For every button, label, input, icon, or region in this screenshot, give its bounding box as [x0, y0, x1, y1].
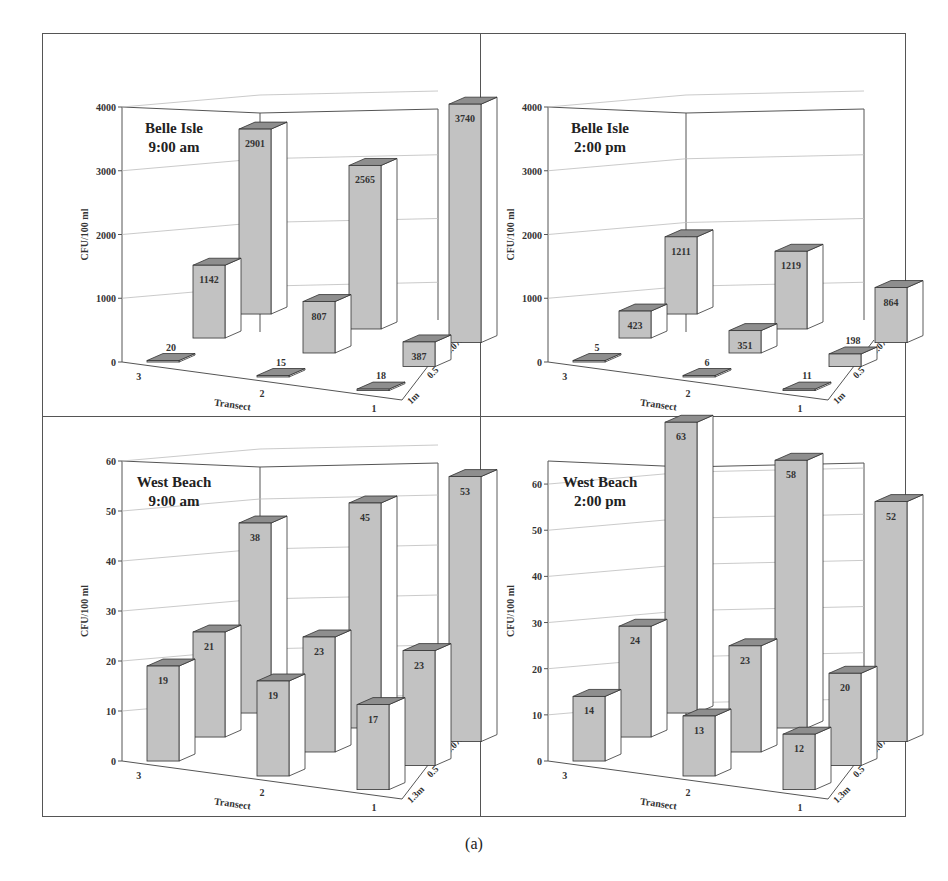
bar-value-label: 15 [276, 357, 286, 368]
y-tick-label: 60 [106, 456, 116, 467]
bar-0.5-2: 807 [303, 295, 351, 353]
bar-side [271, 122, 287, 314]
x-tick-label: 3 [562, 371, 567, 382]
bar-0.075-3: 1211 [665, 230, 713, 314]
bar-value-label: 5 [595, 342, 600, 353]
bar-side [605, 689, 621, 761]
chart-title: 9:00 am [148, 139, 200, 155]
y-tick-label: 0 [537, 756, 542, 767]
x-tick-label: 2 [260, 388, 265, 399]
y-tick-label: 40 [532, 571, 542, 582]
y-tick-label: 30 [532, 618, 542, 629]
depth-tick-label: 1.3m [405, 784, 426, 805]
bar-value-label: 3740 [455, 113, 475, 124]
bar-value-label: 1211 [671, 246, 690, 257]
bar-value-label: 23 [314, 646, 324, 657]
bar-0.5-1: 23 [403, 644, 451, 766]
bar-value-label: 1219 [781, 260, 801, 271]
y-tick-label: 2000 [522, 230, 542, 241]
bar-side [225, 625, 241, 737]
bar-value-label: 14 [584, 705, 594, 716]
bar-value-label: 12 [794, 743, 804, 754]
chart-title: West Beach [137, 474, 212, 490]
bar-value-label: 351 [738, 340, 753, 351]
bar-value-label: 58 [786, 469, 796, 480]
y-tick-label: 3000 [522, 166, 542, 177]
bar-1.3m-3: 19 [147, 659, 195, 761]
bar-value-label: 807 [312, 311, 327, 322]
bar-front [573, 361, 605, 363]
bar-0.5-2: 23 [729, 639, 777, 752]
x-axis-label: Transect [639, 397, 678, 413]
gridline [122, 91, 438, 107]
bar-0.5-1: 20 [829, 666, 877, 765]
bar-value-label: 17 [368, 714, 378, 725]
bar-side [381, 496, 397, 728]
bar-front [449, 104, 481, 342]
bar-value-label: 63 [676, 431, 686, 442]
x-tick-label: 1 [372, 802, 377, 813]
y-tick-label: 3000 [96, 166, 116, 177]
chart-title: 2:00 pm [574, 493, 627, 509]
chart-west-beach-9am: 0102030405060CFU/100 mlWest Beach9:00 am… [42, 416, 480, 817]
y-tick-label: 1000 [96, 293, 116, 304]
bar-0.075-2: 1219 [775, 244, 823, 329]
figure-caption: (a) [0, 835, 948, 853]
bar-0.075-3: 63 [665, 415, 713, 713]
bar-value-label: 20 [840, 682, 850, 693]
bar-side [289, 674, 305, 776]
depth-tick-label: 1.3m [831, 784, 852, 805]
bar-front [349, 503, 381, 728]
bar-side [697, 230, 713, 314]
chart-title: Belle Isle [145, 120, 203, 136]
bar-value-label: 13 [694, 725, 704, 736]
x-tick-label: 3 [136, 770, 141, 781]
chart-title: 2:00 pm [574, 139, 627, 155]
bar-value-label: 2565 [355, 174, 375, 185]
x-tick-label: 3 [136, 371, 141, 382]
bar-front [875, 502, 907, 742]
bar-1m-1: 11 [783, 370, 831, 391]
bar-top [357, 382, 405, 389]
x-axis-label: Transect [213, 796, 252, 812]
bar-front [829, 354, 861, 367]
bar-0.075-2: 58 [775, 453, 823, 728]
y-axis-label: CFU/100 ml [505, 585, 516, 637]
bar-side [381, 158, 397, 329]
y-tick-label: 10 [532, 710, 542, 721]
bar-value-label: 21 [204, 641, 214, 652]
bar-value-label: 45 [360, 512, 370, 523]
bar-side [861, 666, 877, 765]
y-tick-label: 0 [111, 357, 116, 368]
bar-0.5-1: 387 [403, 335, 451, 367]
bar-side [907, 495, 923, 742]
bar-front [665, 422, 697, 713]
bar-front [683, 376, 715, 378]
y-tick-label: 50 [106, 506, 116, 517]
bar-1.3m-2: 13 [683, 709, 731, 776]
bar-value-label: 23 [414, 660, 424, 671]
bar-top [573, 354, 621, 361]
bar-front [357, 389, 389, 391]
x-tick-label: 2 [686, 787, 691, 798]
bar-value-label: 198 [846, 335, 861, 346]
bar-1m-3: 5 [573, 342, 621, 363]
y-tick-label: 1000 [522, 293, 542, 304]
bar-front [775, 460, 807, 728]
bar-0.5-2: 351 [729, 324, 777, 353]
bar-0.075-1: 52 [875, 495, 923, 742]
bar-0.075-3: 2901 [239, 122, 287, 314]
bar-value-label: 19 [158, 675, 168, 686]
bar-0.5-1: 198 [829, 335, 877, 367]
bar-top [683, 369, 731, 376]
bar-0.5-3: 1142 [193, 258, 241, 338]
bar-value-label: 53 [460, 486, 470, 497]
y-tick-label: 4000 [96, 102, 116, 113]
bar-side [435, 644, 451, 766]
bar-value-label: 2901 [245, 138, 265, 149]
bar-1m-1: 18 [357, 370, 405, 391]
bar-1.3m-2: 19 [257, 674, 305, 776]
bar-value-label: 38 [250, 532, 260, 543]
bar-front [147, 361, 179, 363]
bar-0.5-3: 21 [193, 625, 241, 737]
